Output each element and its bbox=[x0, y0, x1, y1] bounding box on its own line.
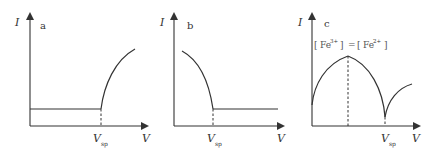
ion-charge-2plus: 2+ bbox=[373, 38, 381, 44]
panel-a: I a V V sp bbox=[14, 14, 151, 148]
vsp-subscript: sp bbox=[101, 140, 108, 148]
panel-label: b bbox=[187, 20, 193, 31]
x-axis-label: V bbox=[277, 132, 286, 145]
rising-current-curve bbox=[101, 49, 135, 109]
y-axis-label: I bbox=[14, 16, 20, 29]
y-axis-label: I bbox=[297, 16, 303, 29]
rising-arc bbox=[312, 56, 348, 105]
right-bracket: ] bbox=[340, 40, 344, 50]
panel-label: a bbox=[40, 20, 46, 31]
right-bracket: ] bbox=[384, 40, 388, 50]
ion-charge-3plus: 3+ bbox=[330, 38, 338, 44]
x-axis-label: V bbox=[412, 132, 421, 145]
panel-b: I b V V sp bbox=[159, 14, 286, 148]
titration-curves-figure: I a V V sp I b V V sp I c [ Fe 3+ ] = bbox=[0, 0, 436, 158]
y-axis-label: I bbox=[159, 16, 165, 29]
vsp-subscript: sp bbox=[215, 140, 222, 148]
vsp-subscript: sp bbox=[389, 140, 396, 148]
equals-sign: = bbox=[348, 40, 356, 50]
falling-arc bbox=[348, 56, 385, 117]
falling-current-curve bbox=[182, 51, 213, 109]
x-axis-label: V bbox=[142, 132, 151, 145]
left-bracket: [ bbox=[314, 40, 318, 50]
peak-annotation: [ Fe 3+ ] = [ Fe 2+ ] bbox=[314, 38, 388, 50]
panel-c: I c [ Fe 3+ ] = [ Fe 2+ ] V V sp bbox=[297, 14, 421, 148]
left-bracket: [ bbox=[357, 40, 361, 50]
panel-label: c bbox=[324, 18, 330, 29]
second-rising-curve bbox=[385, 84, 412, 117]
